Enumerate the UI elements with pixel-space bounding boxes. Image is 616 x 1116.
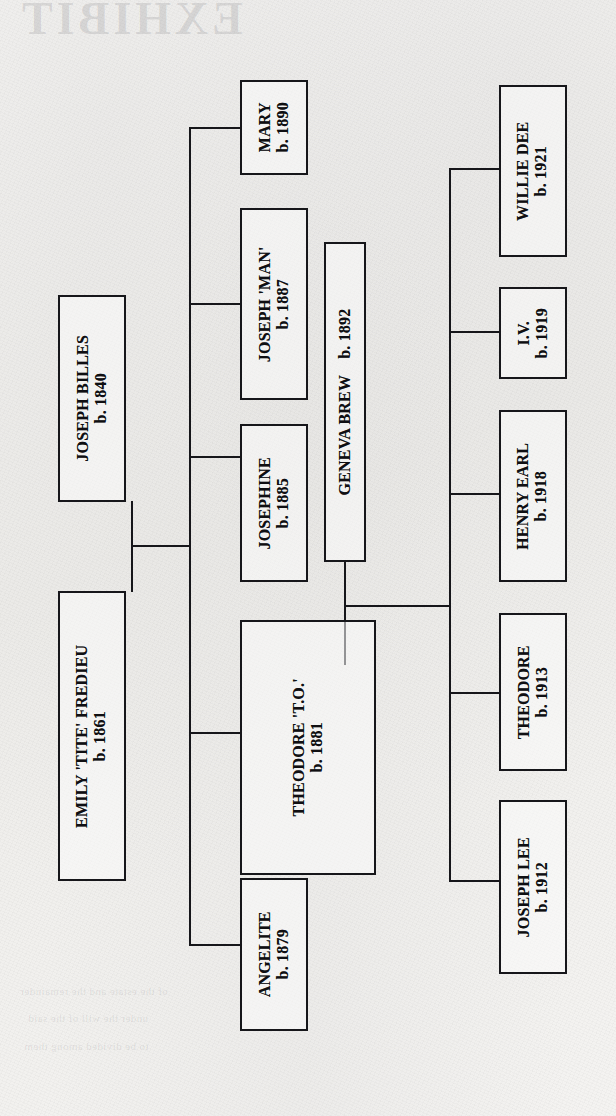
bleed-through-line-3: to be divided among them [24, 1040, 148, 1052]
connector-to-joseph-man [189, 303, 240, 305]
node-emily-fredieu-text: EMILY 'TITE' FREDIEU b. 1861 [75, 644, 110, 827]
node-theodore-name: THEODORE [516, 645, 533, 739]
node-josephine-name: JOSEPHINE [257, 457, 274, 550]
connector-children-spine-1 [189, 127, 191, 945]
node-iv-text: I.V. b. 1919 [516, 308, 551, 358]
connector-to-theodore [449, 692, 499, 694]
family-tree-page: EXHIBIT of the estate and the remainder … [0, 0, 616, 1116]
node-joseph-billes-text: JOSEPH BILLES b. 1840 [75, 335, 110, 462]
connector-children-spine-2 [449, 168, 451, 882]
node-henry-earl[interactable]: HENRY EARL b. 1918 [499, 410, 567, 582]
node-geneva-brew-text: GENEVA BREW b. 1892 [336, 309, 354, 496]
node-emily-fredieu-name: EMILY 'TITE' FREDIEU [75, 644, 92, 827]
connector-to-joseph-lee [449, 880, 499, 882]
node-joseph-lee-text: JOSEPH LEE b. 1912 [516, 837, 551, 937]
node-henry-earl-text: HENRY EARL b. 1918 [516, 442, 551, 549]
connector-to-theodore-to [189, 732, 240, 734]
node-joseph-man-birth: b. 1887 [275, 279, 292, 329]
node-willie-dee-name: WILLIE DEE [516, 121, 533, 220]
node-joseph-man[interactable]: JOSEPH 'MAN' b. 1887 [240, 208, 308, 400]
node-josephine-text: JOSEPHINE b. 1885 [257, 457, 292, 550]
node-joseph-billes-birth: b. 1840 [93, 373, 110, 423]
connector-to-willie-dee [449, 168, 499, 170]
connector-to-henry-earl [449, 493, 499, 495]
node-angelite[interactable]: ANGELITE b. 1879 [240, 878, 308, 1031]
node-angelite-text: ANGELITE b. 1879 [257, 911, 292, 997]
node-joseph-man-text: JOSEPH 'MAN' b. 1887 [257, 246, 292, 362]
node-iv[interactable]: I.V. b. 1919 [499, 287, 567, 379]
connector-geneva-brew-stub [344, 561, 346, 607]
connector-to-mary [189, 127, 240, 129]
node-theodore-to-text: THEODORE 'T.O.' b. 1881 [291, 678, 326, 816]
node-willie-dee[interactable]: WILLIE DEE b. 1921 [499, 85, 567, 257]
connector-emily-fredieu-stub [131, 545, 133, 592]
node-iv-name: I.V. [516, 321, 533, 346]
bleed-through-title: EXHIBIT [18, 0, 243, 45]
node-joseph-lee[interactable]: JOSEPH LEE b. 1912 [499, 800, 567, 974]
node-theodore[interactable]: THEODORE b. 1913 [499, 613, 567, 771]
node-angelite-name: ANGELITE [257, 911, 274, 997]
node-theodore-to-birth: b. 1881 [309, 722, 326, 772]
node-geneva-brew[interactable]: GENEVA BREW b. 1892 [324, 242, 366, 562]
node-theodore-birth: b. 1913 [534, 667, 551, 717]
node-mary-name: MARY [257, 103, 274, 153]
connector-marriage-bar-2 [344, 605, 451, 607]
node-mary-text: MARY b. 1890 [257, 102, 292, 152]
node-mary[interactable]: MARY b. 1890 [240, 80, 308, 175]
node-henry-earl-name: HENRY EARL [516, 442, 533, 549]
node-joseph-lee-name: JOSEPH LEE [516, 837, 533, 937]
connector-joseph-billes-stub [131, 501, 133, 547]
node-willie-dee-birth: b. 1921 [534, 146, 551, 196]
node-joseph-billes[interactable]: JOSEPH BILLES b. 1840 [58, 295, 126, 502]
node-geneva-brew-name: GENEVA BREW [336, 375, 354, 496]
node-geneva-brew-birth: b. 1892 [336, 309, 354, 359]
node-josephine-birth: b. 1885 [275, 478, 292, 528]
connector-marriage-bar-1 [131, 545, 191, 547]
node-theodore-text: THEODORE b. 1913 [516, 645, 551, 739]
connector-to-josephine [189, 456, 240, 458]
node-emily-fredieu[interactable]: EMILY 'TITE' FREDIEU b. 1861 [58, 591, 126, 881]
node-joseph-billes-name: JOSEPH BILLES [75, 335, 92, 462]
connector-to-angelite [189, 944, 240, 946]
node-theodore-to-name: THEODORE 'T.O.' [291, 678, 308, 816]
node-josephine[interactable]: JOSEPHINE b. 1885 [240, 424, 308, 582]
node-joseph-lee-birth: b. 1912 [534, 862, 551, 912]
bleed-through-line-2: under the will of the said [28, 1012, 148, 1024]
node-angelite-birth: b. 1879 [275, 929, 292, 979]
connector-to-iv [449, 331, 499, 333]
node-emily-fredieu-birth: b. 1861 [93, 711, 110, 761]
node-willie-dee-text: WILLIE DEE b. 1921 [516, 121, 551, 220]
bleed-through-line-1: of the estate and the remainder [20, 985, 168, 997]
node-joseph-man-name: JOSEPH 'MAN' [257, 246, 274, 362]
node-theodore-to[interactable]: THEODORE 'T.O.' b. 1881 [240, 620, 376, 875]
node-henry-earl-birth: b. 1918 [534, 471, 551, 521]
node-mary-birth: b. 1890 [275, 102, 292, 152]
node-iv-birth: b. 1919 [534, 308, 551, 358]
